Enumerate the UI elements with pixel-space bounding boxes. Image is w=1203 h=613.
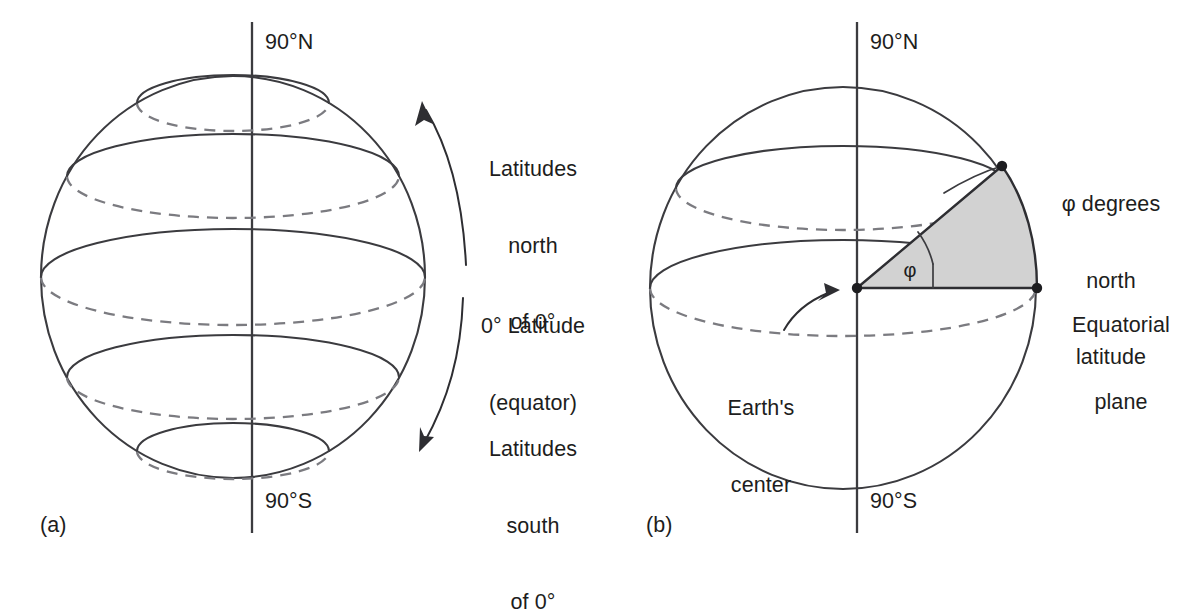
panel-a-north-arrow-line (426, 110, 466, 265)
panel-a-south-latitudes-line2: south (463, 514, 603, 540)
panel-a-north-latitudes-line2: north (463, 234, 603, 260)
panel-b-latitude-30n-front (676, 146, 1010, 188)
panel-a-latitude-60s-front (137, 423, 329, 451)
panel-a-equator-back (41, 277, 425, 325)
panel-b-south-pole-label: 90°S (870, 489, 917, 515)
panel-a-south-latitudes-line1: Latitudes (463, 437, 603, 463)
panel-b-equatorial-plane-label: Equatorial plane (1046, 262, 1196, 466)
panel-b-equator-back (650, 288, 1036, 336)
panel-a-south-latitudes-line3: of 0° (463, 590, 603, 613)
panel-a-latitude-30s-back (67, 377, 399, 419)
panel-a-north-pole-label: 90°N (265, 30, 313, 56)
panel-a-south-arrow-head (419, 427, 434, 452)
panel-b-phi-latitude-line1: φ degrees (1036, 192, 1186, 218)
panel-a-latitude-60n-back (137, 103, 329, 131)
panel-a-latitude-30n-front (67, 134, 399, 176)
panel-b-equatorial-plane-line1: Equatorial (1046, 313, 1196, 339)
panel-b-earths-center-line1: Earth's (691, 396, 831, 422)
panel-b-earths-center-line2: center (691, 473, 831, 499)
panel-a-north-arrow-head (415, 101, 433, 126)
panel-b-north-pole-label: 90°N (870, 30, 918, 56)
panel-a-south-pole-label: 90°S (265, 489, 312, 515)
panel-b-earth-center-dot (852, 283, 862, 293)
panel-a-tag: (a) (40, 513, 67, 539)
panel-a-latitude-30n-back (67, 176, 399, 218)
panel-b-center-arrow-head (818, 283, 840, 301)
panel-a-south-latitudes-label: Latitudes south of 0° (463, 386, 603, 613)
panel-a-north-latitudes-line1: Latitudes (463, 157, 603, 183)
panel-a-sphere-outline (41, 76, 425, 478)
panel-a-equator-front (41, 229, 425, 277)
panel-b-equatorial-plane-line2: plane (1046, 390, 1196, 416)
panel-b-phi-latitude-dot (997, 161, 1007, 171)
panel-a-globe (41, 22, 466, 533)
panel-b-tag: (b) (646, 513, 673, 539)
panel-a-latitude-30s-front (67, 335, 399, 377)
panel-a-equator-line1: 0° Latitude (453, 314, 613, 340)
panel-b-angle-symbol: φ (899, 258, 921, 284)
panel-b-earths-center-label: Earth's center (691, 345, 831, 549)
panel-b-latitude-wedge-fill (857, 166, 1037, 288)
